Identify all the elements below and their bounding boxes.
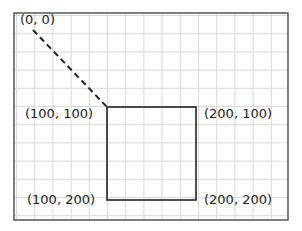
label-bottom-left: (100, 200) bbox=[27, 192, 95, 207]
square-shape bbox=[107, 107, 196, 200]
label-top-left: (100, 100) bbox=[25, 106, 93, 121]
label-origin: (0, 0) bbox=[20, 12, 55, 27]
label-top-right: (200, 100) bbox=[204, 106, 272, 121]
label-bottom-right: (200, 200) bbox=[204, 192, 272, 207]
dashed-line bbox=[33, 30, 107, 107]
